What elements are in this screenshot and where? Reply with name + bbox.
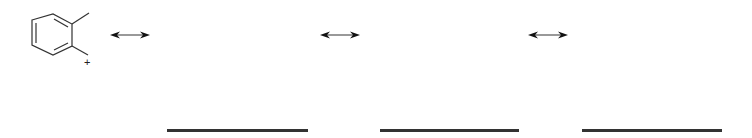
answer-blank-2[interactable] <box>380 129 519 132</box>
answer-blank-1[interactable] <box>167 129 308 132</box>
toluene-cation-structure <box>0 0 752 138</box>
answer-blank-3[interactable] <box>582 129 722 132</box>
resonance-arrows <box>110 32 568 39</box>
methyl-bond-top <box>72 13 89 24</box>
resonance-arrow-3 <box>528 32 568 39</box>
benzene-ring <box>32 14 72 55</box>
resonance-arrow-1 <box>110 32 150 39</box>
methyl-bond-bottom <box>72 46 88 55</box>
positive-charge: + <box>84 57 90 68</box>
resonance-arrow-2 <box>320 32 360 39</box>
